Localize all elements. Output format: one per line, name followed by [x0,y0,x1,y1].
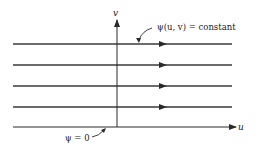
flow-arrow-icon [159,83,167,89]
streamline-pointer-icon [139,28,152,40]
flow-arrow-icon [159,104,167,110]
u-axis-label: u [238,122,244,132]
streamlines [13,44,232,107]
v-axis-label: v [113,8,118,18]
baseline-label: ψ = 0 [65,133,90,143]
streamline-diagram: u v ψ(u, v) = constant ψ = 0 [0,0,256,150]
flow-arrow-icon [159,41,167,47]
streamline-label: ψ(u, v) = constant [157,22,236,32]
flow-arrow-icons [159,41,167,110]
flow-arrow-icon [159,62,167,68]
